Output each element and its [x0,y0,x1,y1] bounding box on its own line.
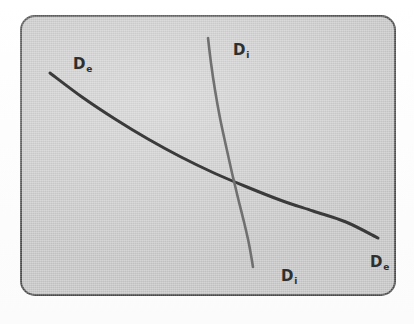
chart-panel: De Di Di De [20,15,396,296]
curve-label-di-top-sub: i [246,50,249,60]
curve-label-de-bottom-sub: e [383,262,389,272]
curve-label-de-top-base: D [73,55,86,73]
curve-label-di-top-base: D [233,41,246,59]
curve-label-di-bottom-sub: i [294,276,297,286]
curve-label-di-top: Di [233,43,249,58]
curve-label-de-bottom-base: D [370,253,383,271]
demand-curve-di [208,38,253,267]
curve-label-di-bottom-base: D [281,267,294,285]
curve-label-de-top-sub: e [86,64,92,74]
curve-label-di-bottom: Di [281,269,297,284]
diagram-canvas: De Di Di De [0,0,414,324]
curve-label-de-top: De [73,57,92,72]
curve-label-de-bottom: De [370,255,389,270]
demand-curve-de [50,73,378,238]
